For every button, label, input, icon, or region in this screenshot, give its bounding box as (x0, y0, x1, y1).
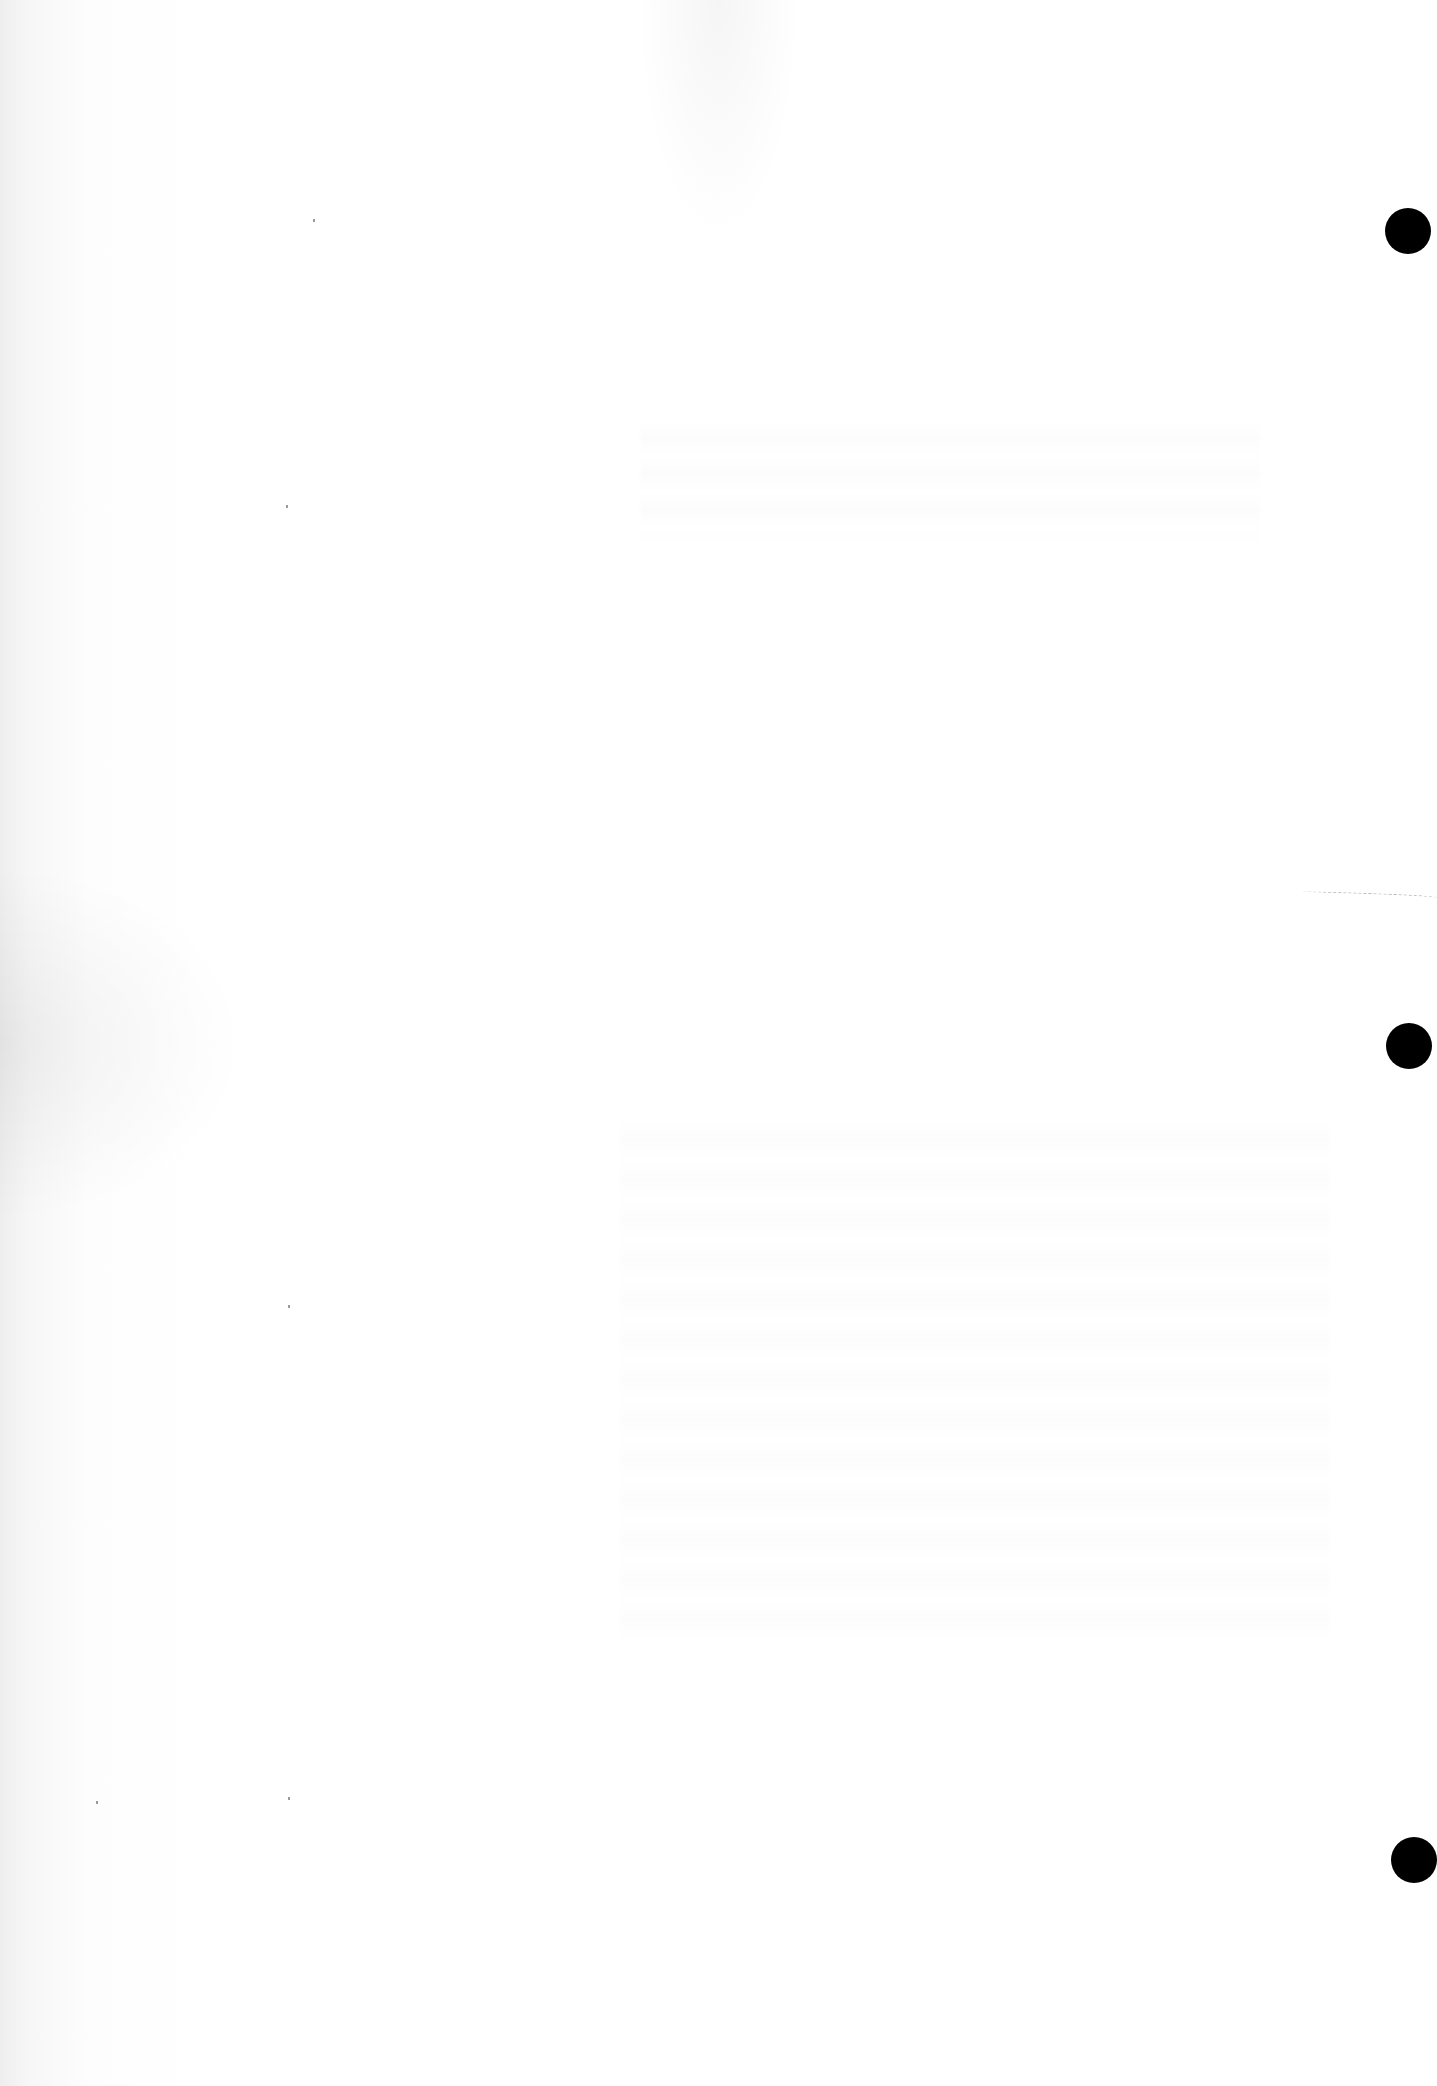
bleed-through-text-block (620, 1120, 1330, 1640)
scan-speck (288, 1797, 290, 1800)
punch-hole-middle (1386, 1023, 1432, 1069)
scan-speck (286, 505, 288, 508)
scan-speck (96, 1801, 98, 1804)
scan-speck (288, 1305, 290, 1308)
bleed-through-text-top (640, 420, 1260, 540)
punch-hole-top (1385, 208, 1431, 254)
paper-edge-line (1300, 891, 1437, 911)
punch-hole-bottom (1391, 1837, 1437, 1883)
scan-speck (313, 219, 315, 222)
scanned-page (0, 0, 1437, 2086)
